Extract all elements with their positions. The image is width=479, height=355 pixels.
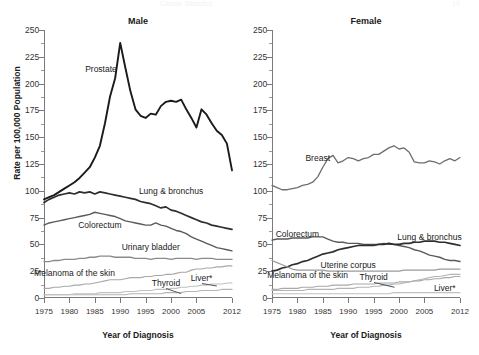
y-tick-label: 0 xyxy=(34,293,42,303)
x-tick-label: 2000 xyxy=(390,307,408,316)
x-tick-label: 1995 xyxy=(365,307,383,316)
y-axis-label: Rate per 100,000 Population xyxy=(12,58,22,188)
y-tick-label: 200 xyxy=(25,79,42,89)
x-tick xyxy=(196,298,197,303)
y-tick-minor xyxy=(269,258,272,259)
x-tick-label: 1980 xyxy=(60,307,78,316)
y-tick-minor xyxy=(41,258,44,259)
x-tick-label: 1990 xyxy=(111,307,129,316)
y-tick-minor xyxy=(41,124,44,125)
x-tick xyxy=(374,298,375,303)
y-tick-label: 175 xyxy=(25,105,42,115)
y-tick-minor xyxy=(41,285,44,286)
annotation-breast: Breast xyxy=(305,153,330,163)
x-tick xyxy=(348,298,349,303)
annotation-lung: Lung & bronchus xyxy=(139,186,203,196)
y-tick-minor xyxy=(41,204,44,205)
panel-female: Female 025507510012515017520022525019751… xyxy=(272,18,460,308)
x-tick xyxy=(120,298,121,303)
annotation-prostate: Prostate xyxy=(85,64,117,74)
x-tick-label: 2012 xyxy=(223,307,241,316)
plot-area-male: 0255075100125150175200225250197519801985… xyxy=(44,30,232,298)
y-tick-label: 200 xyxy=(253,79,270,89)
annotation-melanoma: Melanoma of the skin xyxy=(267,270,348,280)
faint-page-number: 10 xyxy=(452,0,460,7)
series-lines-male xyxy=(44,30,232,298)
figure-root: Cancer Statistics 10 Rate per 100,000 Po… xyxy=(0,0,479,355)
annotation-liver: Liver* xyxy=(191,273,213,283)
x-tick-label: 1985 xyxy=(314,307,332,316)
x-tick xyxy=(44,298,45,303)
y-tick-label: 125 xyxy=(25,159,42,169)
y-tick-label: 125 xyxy=(253,159,270,169)
x-tick-label: 2012 xyxy=(451,307,469,316)
x-tick xyxy=(232,298,233,303)
x-axis-label-female: Year of Diagnosis xyxy=(272,330,460,340)
y-tick-minor xyxy=(269,97,272,98)
y-tick-minor xyxy=(41,43,44,44)
x-tick xyxy=(146,298,147,303)
x-tick xyxy=(272,298,273,303)
panel-title-female: Female xyxy=(272,16,460,26)
annotation-melanoma: Melanoma of the skin xyxy=(34,268,115,278)
y-tick-label: 50 xyxy=(30,239,42,249)
x-tick xyxy=(399,298,400,303)
y-tick-label: 225 xyxy=(25,52,42,62)
annotation-colorectum: Colorectum xyxy=(276,229,319,239)
y-tick-label: 75 xyxy=(258,213,270,223)
y-tick-minor xyxy=(269,177,272,178)
y-tick-label: 150 xyxy=(25,132,42,142)
series-line-liver xyxy=(44,283,232,295)
series-line-breast xyxy=(272,146,460,190)
y-tick-label: 225 xyxy=(253,52,270,62)
annotation-bladder: Urinary bladder xyxy=(122,242,180,252)
x-tick-label: 2005 xyxy=(416,307,434,316)
x-tick-label: 2005 xyxy=(188,307,206,316)
y-tick-label: 150 xyxy=(253,132,270,142)
y-tick-label: 75 xyxy=(30,213,42,223)
x-tick-label: 1995 xyxy=(137,307,155,316)
annotation-liver: Liver* xyxy=(434,283,456,293)
y-tick-minor xyxy=(269,204,272,205)
x-tick-label: 2000 xyxy=(162,307,180,316)
plot-area-female: 0255075100125150175200225250197519801985… xyxy=(272,30,460,298)
annotation-lung: Lung & bronchus xyxy=(397,232,461,242)
x-tick-label: 1990 xyxy=(339,307,357,316)
x-tick xyxy=(95,298,96,303)
x-tick xyxy=(297,298,298,303)
y-tick-minor xyxy=(269,70,272,71)
y-tick-minor xyxy=(41,70,44,71)
y-tick-label: 100 xyxy=(25,186,42,196)
x-axis-label-male: Year of Diagnosis xyxy=(44,330,232,340)
x-tick xyxy=(424,298,425,303)
y-tick-label: 250 xyxy=(25,25,42,35)
y-tick-minor xyxy=(269,285,272,286)
x-tick xyxy=(171,298,172,303)
x-tick xyxy=(69,298,70,303)
x-tick-label: 1980 xyxy=(288,307,306,316)
y-tick-minor xyxy=(41,97,44,98)
y-tick-minor xyxy=(41,151,44,152)
faint-page-header: Cancer Statistics xyxy=(160,0,460,9)
y-tick-minor xyxy=(41,231,44,232)
y-tick-label: 250 xyxy=(253,25,270,35)
y-tick-label: 175 xyxy=(253,105,270,115)
y-tick-minor xyxy=(269,231,272,232)
panel-male: Male 02550751001251501752002252501975198… xyxy=(44,18,232,308)
y-tick-minor xyxy=(269,43,272,44)
x-tick xyxy=(460,298,461,303)
x-tick-label: 1975 xyxy=(35,307,53,316)
y-tick-minor xyxy=(41,177,44,178)
y-tick-label: 0 xyxy=(262,293,270,303)
annotation-thyroid: Thyroid xyxy=(152,278,180,288)
series-line-prostate xyxy=(44,43,232,200)
series-lines-female xyxy=(272,30,460,298)
y-tick-minor xyxy=(269,124,272,125)
y-tick-minor xyxy=(269,151,272,152)
annotation-uterine: Uterine corpus xyxy=(321,260,376,270)
annotation-thyroid: Thyroid xyxy=(359,272,387,282)
x-tick xyxy=(323,298,324,303)
panel-title-male: Male xyxy=(44,16,232,26)
series-line-liver xyxy=(272,293,460,294)
x-tick-label: 1975 xyxy=(263,307,281,316)
